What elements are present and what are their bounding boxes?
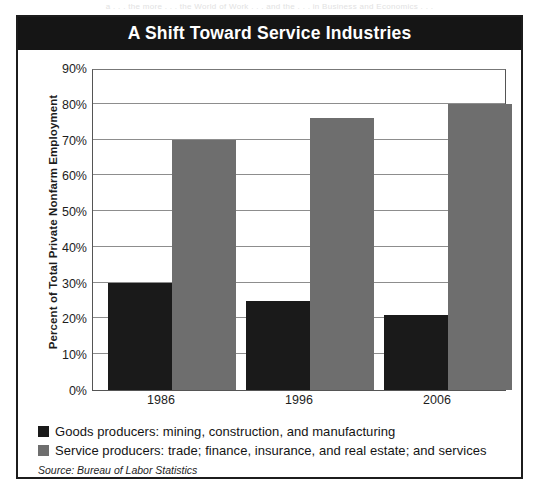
bar-1996-services [310, 118, 374, 390]
legend-label: Goods producers: mining, construction, a… [55, 424, 395, 439]
y-axis-tick-label: 30% [26, 277, 92, 291]
y-axis-tick-label: 0% [26, 384, 92, 398]
bars-layer [93, 70, 505, 390]
source-note: Source: Bureau of Labor Statistics [38, 464, 197, 476]
scan-bleed-text: a . . . the more . . . the World of Work… [0, 0, 539, 13]
gridline [93, 67, 505, 68]
y-axis-tick-label: 20% [26, 312, 92, 326]
y-axis-tick-labels: 0%10%20%30%40%50%60%70%80%90% [18, 69, 92, 391]
bar-1996-goods [246, 301, 310, 390]
plot-area [92, 69, 506, 391]
bar-group [108, 70, 216, 390]
legend-label: Service producers: trade; finance, insur… [55, 443, 487, 458]
chart-legend: Goods producers: mining, construction, a… [38, 424, 508, 462]
y-axis-tick-label: 40% [26, 241, 92, 255]
y-axis-tick-label: 80% [26, 98, 92, 112]
bar-2006-goods [384, 315, 448, 390]
figure-frame: A Shift Toward Service Industries Percen… [16, 15, 523, 479]
bar-group [384, 70, 492, 390]
bar-1986-goods [108, 283, 172, 390]
y-axis-tick-label: 10% [26, 348, 92, 362]
chart-body: Percent of Total Private Nonfarm Employm… [18, 50, 521, 479]
y-axis-tick-label: 50% [26, 205, 92, 219]
y-axis-tick-label: 90% [26, 62, 92, 76]
bar-2006-services [448, 104, 512, 390]
chart-title: A Shift Toward Service Industries [18, 17, 521, 50]
legend-swatch-icon [38, 426, 49, 437]
legend-swatch-icon [38, 445, 49, 456]
bar-1986-services [172, 140, 236, 390]
legend-item: Goods producers: mining, construction, a… [38, 424, 508, 439]
x-axis-tick-label-1996: 1996 [235, 393, 363, 407]
y-axis-tick-label: 70% [26, 134, 92, 148]
x-axis-tick-labels: 198619962006 [92, 393, 506, 413]
x-axis-tick-label-1986: 1986 [97, 393, 225, 407]
legend-item: Service producers: trade; finance, insur… [38, 443, 508, 458]
x-axis-tick-label-2006: 2006 [373, 393, 501, 407]
bar-group [246, 70, 354, 390]
y-axis-tick-label: 60% [26, 169, 92, 183]
